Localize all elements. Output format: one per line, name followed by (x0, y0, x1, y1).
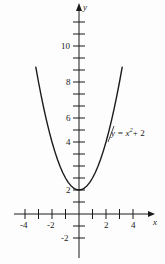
y-tick-label-8: 8 (66, 78, 71, 87)
y-axis-arrowhead (76, 3, 82, 11)
curve-equation-label: y = x2+ 2 (111, 129, 145, 138)
y-tick-label-2: 2 (66, 186, 71, 195)
y-tick-label-6: 6 (66, 114, 71, 123)
x-tick-label-neg2: -2 (47, 221, 55, 230)
x-tick-label-neg4: -4 (20, 221, 28, 230)
y-tick-label-10: 10 (61, 42, 70, 51)
graph-figure: -4 -2 2 4 -2 2 4 6 8 10 x y y = x2+ 2 (0, 0, 165, 264)
x-tick-label-2: 2 (104, 221, 109, 230)
y-tick-label-4: 4 (66, 138, 71, 147)
y-axis-label: y (83, 3, 87, 12)
y-tick-label-neg2: -2 (61, 234, 69, 243)
x-axis (14, 211, 155, 217)
x-axis-label: x (153, 218, 157, 227)
x-tick-label-4: 4 (131, 221, 136, 230)
equation-tail: + 2 (133, 128, 145, 138)
equation-lhs: y = x (111, 128, 130, 138)
